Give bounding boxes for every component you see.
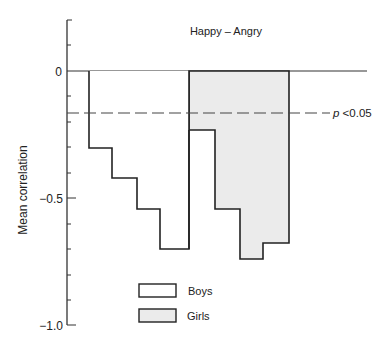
y-tick-label-0: 0 xyxy=(55,65,62,79)
chart: 0 −0.5 −1.0 Mean correlation Happy – Ang… xyxy=(0,0,386,346)
y-axis-label: Mean correlation xyxy=(16,145,30,234)
legend: Boys Girls xyxy=(139,284,213,322)
legend-label-boys: Boys xyxy=(188,285,213,297)
legend-swatch-boys xyxy=(139,284,176,297)
legend-label-girls: Girls xyxy=(187,310,210,322)
significance-label: p <0.05 xyxy=(332,107,372,119)
series-girls-bars xyxy=(189,71,289,259)
series-boys-bars xyxy=(89,71,189,249)
p-threshold: <0.05 xyxy=(339,107,371,119)
y-tick-label-neg05: −0.5 xyxy=(39,192,63,206)
legend-swatch-girls xyxy=(139,309,176,322)
y-ticks xyxy=(67,20,76,325)
chart-title: Happy – Angry xyxy=(190,25,263,37)
y-tick-label-neg10: −1.0 xyxy=(39,319,63,333)
